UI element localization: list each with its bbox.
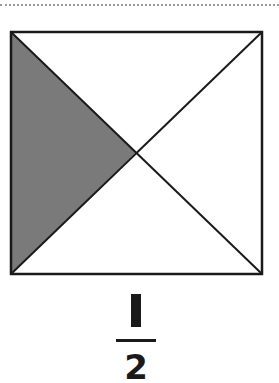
shaded-left-triangle — [11, 32, 136, 274]
square-diagram — [0, 0, 279, 300]
fraction-bar — [116, 339, 156, 342]
fraction-denominator: 2 — [112, 350, 160, 383]
fraction-numerator — [131, 294, 141, 327]
